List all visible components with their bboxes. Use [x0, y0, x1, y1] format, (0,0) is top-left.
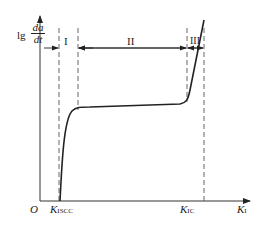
x-axis-label: KI [237, 203, 247, 215]
region-label-1: I [64, 35, 68, 47]
kic-label: KIC [180, 203, 194, 215]
crack-growth-curve [60, 20, 204, 201]
kiscc-label: KISCC [50, 203, 73, 215]
region-label-2: II [127, 35, 134, 47]
region-boundaries [59, 28, 204, 201]
region-label-3: III [190, 35, 200, 46]
origin-label: O [30, 203, 38, 215]
